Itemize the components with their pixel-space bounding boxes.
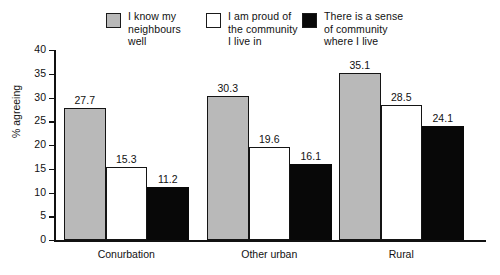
legend-label-1: I am proud of the community I live in bbox=[228, 10, 298, 48]
bar-value-label: 16.1 bbox=[286, 150, 336, 162]
bar-value-label: 27.7 bbox=[60, 94, 110, 106]
bar bbox=[381, 105, 423, 240]
legend-label-0: I know my neighbours well bbox=[128, 10, 200, 48]
y-tick-label: 15 bbox=[18, 162, 46, 174]
y-tick-mark bbox=[49, 193, 54, 194]
y-tick-label: 35 bbox=[18, 67, 46, 79]
y-tick-mark bbox=[49, 121, 54, 122]
y-tick-label: 5 bbox=[18, 209, 46, 221]
bar bbox=[339, 73, 381, 240]
legend-swatch-white-icon bbox=[206, 13, 221, 28]
bar-value-label: 30.3 bbox=[203, 82, 253, 94]
bar-value-label: 11.2 bbox=[143, 173, 193, 185]
bar bbox=[147, 187, 189, 240]
legend-label-2: There is a sense of community where I li… bbox=[324, 10, 403, 48]
legend-swatch-gray-icon bbox=[106, 13, 121, 28]
category-label: Rural bbox=[319, 248, 484, 260]
bar-value-label: 15.3 bbox=[102, 153, 152, 165]
x-axis-line bbox=[54, 240, 486, 242]
plot-area: 0510152025303540 27.715.311.230.319.616.… bbox=[54, 50, 486, 240]
y-tick-label: 25 bbox=[18, 114, 46, 126]
bar-chart: I know my neighbours well I am proud of … bbox=[0, 0, 500, 275]
y-tick-label: 10 bbox=[18, 186, 46, 198]
bar-value-label: 19.6 bbox=[245, 133, 295, 145]
bar bbox=[207, 96, 249, 240]
legend-swatch-black-icon bbox=[302, 13, 317, 28]
y-tick-label: 30 bbox=[18, 91, 46, 103]
bar bbox=[290, 164, 332, 240]
y-tick-label: 0 bbox=[18, 233, 46, 245]
y-axis-line bbox=[54, 50, 56, 240]
y-tick-mark bbox=[49, 216, 54, 217]
category-label: Conurbation bbox=[44, 248, 209, 260]
bar-value-label: 35.1 bbox=[335, 59, 385, 71]
y-tick-mark bbox=[49, 240, 54, 241]
y-tick-label: 20 bbox=[18, 138, 46, 150]
y-tick-mark bbox=[49, 74, 54, 75]
y-tick-mark bbox=[49, 98, 54, 99]
bar bbox=[106, 167, 148, 240]
y-tick-mark bbox=[49, 50, 54, 51]
bar bbox=[64, 108, 106, 240]
y-tick-label: 40 bbox=[18, 43, 46, 55]
bar-value-label: 28.5 bbox=[377, 91, 427, 103]
y-tick-mark bbox=[49, 169, 54, 170]
bar bbox=[249, 147, 291, 240]
y-tick-mark bbox=[49, 145, 54, 146]
bar-value-label: 24.1 bbox=[418, 112, 468, 124]
bar bbox=[422, 126, 464, 240]
